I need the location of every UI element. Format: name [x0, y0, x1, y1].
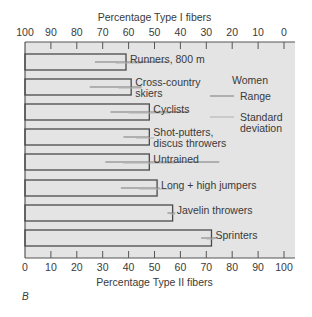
top-tick-label: 30: [200, 26, 212, 38]
bar-label: Runners, 800 m: [130, 53, 205, 65]
bar-label: discus throwers: [153, 137, 226, 149]
top-tick-label: 100: [16, 26, 34, 38]
top-tick-label: 50: [149, 26, 161, 38]
bottom-tick-label: 20: [71, 261, 83, 273]
legend-title: Women: [232, 74, 268, 86]
top-tick-label: 20: [226, 26, 238, 38]
bottom-tick-label: 10: [45, 261, 57, 273]
bottom-tick-label: 80: [226, 261, 238, 273]
top-tick-label: 10: [252, 26, 264, 38]
panel-label: B: [22, 291, 29, 302]
bar-label: Sprinters: [215, 229, 257, 241]
top-tick-label: 60: [123, 26, 135, 38]
bottom-tick-label: 40: [123, 261, 135, 273]
top-tick-label: 40: [175, 26, 187, 38]
bottom-tick-label: 50: [149, 261, 161, 273]
bottom-tick-label: 30: [97, 261, 109, 273]
bar-label: skiers: [135, 87, 162, 99]
bottom-axis-title: Percentage Type II fibers: [96, 276, 213, 288]
top-tick-label: 70: [97, 26, 109, 38]
bottom-tick-label: 90: [252, 261, 264, 273]
top-tick-label: 80: [71, 26, 83, 38]
top-axis-title: Percentage Type I fibers: [98, 11, 212, 23]
bottom-tick-label: 0: [22, 261, 28, 273]
bar-label: Untrained: [153, 153, 199, 165]
bar-label: Long + high jumpers: [161, 179, 256, 191]
bar-label: Javelin throwers: [177, 204, 253, 216]
bar-label: Cyclists: [153, 103, 189, 115]
bottom-tick-label: 100: [275, 261, 293, 273]
top-tick-label: 0: [281, 26, 287, 38]
legend-range-label: Range: [240, 90, 271, 102]
bottom-tick-label: 70: [200, 261, 212, 273]
fiber-type-chart: Percentage Type I fibers1009080706050403…: [0, 0, 312, 317]
top-tick-label: 90: [45, 26, 57, 38]
legend-sd-label-2: deviation: [240, 122, 282, 134]
bottom-tick-label: 60: [175, 261, 187, 273]
